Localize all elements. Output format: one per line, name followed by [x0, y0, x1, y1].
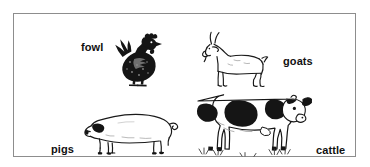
chicken-icon [114, 31, 164, 89]
cow-icon [190, 86, 312, 162]
pig-icon [84, 106, 184, 158]
figure-root: fowl goats pigs cattle [0, 0, 370, 167]
figure-border-frame: fowl goats pigs cattle [13, 13, 356, 157]
pig-ear [92, 123, 104, 132]
label-pigs: pigs [51, 143, 74, 155]
label-fowl: fowl [81, 41, 103, 53]
label-goats: goats [283, 55, 313, 67]
goat-icon [200, 30, 272, 94]
label-cattle: cattle [316, 144, 345, 156]
